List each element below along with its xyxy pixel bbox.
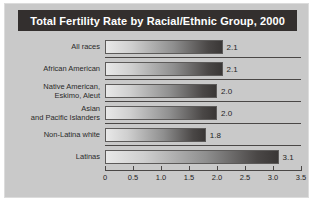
x-axis-tick-label: 3.0 [268,173,278,182]
bar-row: Latinas3.1 [5,146,310,168]
category-label: All races [0,36,100,58]
chart-panel: Total Fertility Rate by Racial/Ethnic Gr… [4,3,309,198]
bar-value-label: 3.1 [283,146,294,168]
category-label-line: All races [71,42,100,52]
x-axis-tick [133,166,134,170]
bar-value-label: 2.1 [227,36,238,58]
bar-row: Non-Latina white1.8 [5,124,310,146]
category-label-line: Asian [81,104,100,114]
x-axis-tick-label: 0 [103,173,107,182]
bar-row: All races2.1 [5,36,310,58]
category-label-line: Non-Latina white [44,130,100,140]
x-axis-tick-label: 1.5 [184,173,194,182]
bar-value-label: 2.0 [221,80,232,102]
x-axis-tick-label: 1.0 [156,173,166,182]
x-axis-tick-label: 2.5 [240,173,250,182]
bar [105,150,279,164]
x-axis-left-cap [105,166,106,171]
x-axis-line [105,170,302,171]
x-axis-tick [273,166,274,170]
category-label: Latinas [0,146,100,168]
category-label-line: Eskimo, Aleut [55,91,100,101]
bar [105,84,217,98]
x-axis-tick-label: 3.5 [296,173,306,182]
chart-title: Total Fertility Rate by Racial/Ethnic Gr… [30,15,285,27]
category-label: Non-Latina white [0,124,100,146]
x-axis-tick [189,166,190,170]
bar [105,62,223,76]
category-label-line: and Pacific Islanders [31,113,100,123]
plot-area: All races2.1African American2.1Native Am… [5,34,310,197]
bar [105,106,217,120]
chart-title-bar: Total Fertility Rate by Racial/Ethnic Gr… [18,10,297,31]
bar-value-label: 2.0 [221,102,232,124]
bar [105,40,223,54]
x-axis-right-cap [301,166,302,171]
bar-row: African American2.1 [5,58,310,80]
category-label: African American [0,58,100,80]
bar-value-label: 1.8 [210,124,221,146]
category-label: Asianand Pacific Islanders [0,102,100,124]
x-axis-tick [217,166,218,170]
bar [105,128,206,142]
bar-value-label: 2.1 [227,58,238,80]
category-label: Native American,Eskimo, Aleut [0,80,100,102]
bar-row: Asianand Pacific Islanders2.0 [5,102,310,124]
category-label-line: Latinas [76,152,100,162]
x-axis-tick-label: 0.5 [128,173,138,182]
x-axis-tick-label: 2.0 [212,173,222,182]
category-label-line: Native American, [43,82,100,92]
x-axis-tick [161,166,162,170]
x-axis-tick [245,166,246,170]
category-label-line: African American [43,64,100,74]
bar-row: Native American,Eskimo, Aleut2.0 [5,80,310,102]
